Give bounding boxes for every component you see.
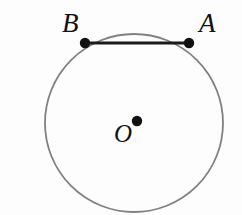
- point-label-a: A: [199, 10, 216, 37]
- point-label-o: O: [114, 121, 132, 146]
- point-label-b: B: [62, 10, 79, 37]
- point-b-dot: [80, 38, 90, 48]
- point-o-center-dot: [132, 116, 142, 126]
- geometry-figure: B A O: [0, 0, 242, 215]
- point-a-dot: [184, 38, 194, 48]
